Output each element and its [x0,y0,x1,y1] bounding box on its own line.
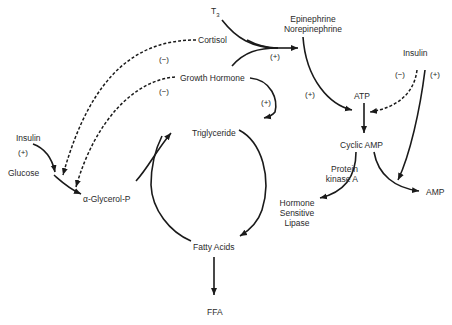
diagram-canvas [0,0,452,325]
epinephrine-text: Epinephrine [281,14,345,24]
epi-plus-sign: (+) [305,90,315,100]
insulin-minus-sign: (−) [395,70,405,80]
glucose-label: Glucose [8,168,39,178]
cortisol-inhibit-arrow [63,40,196,175]
insulin-left-plus-sign: (+) [18,148,28,158]
glycerol-to-tg-arrow [136,133,171,181]
camp-to-amp-arrow [374,152,419,191]
glycerol-p-label: α-Glycerol-P [83,194,130,204]
protein-kinase-label: Protein kinase A [314,164,358,184]
cortisol-label: Cortisol [198,35,227,45]
gh-inhibit-sign: (−) [159,87,169,97]
insulin-left-label: Insulin [16,133,41,143]
hormone-sensitive-lipase-label: Hormone Sensitive Lipase [272,198,322,228]
gh-plus-sign: (+) [261,98,271,108]
converge-plus-sign: (+) [270,52,280,62]
protein-kinase-text-2: kinase A [314,174,358,184]
triglyceride-label: Triglyceride [192,128,236,138]
cycle-right-arrow [239,130,266,236]
cortisol-inhibit-sign: (−) [159,55,169,65]
glucose-to-glycerol-arrow [54,175,81,194]
insulin-plus-sign: (+) [430,70,440,80]
hsl-text-1: Hormone [272,198,322,208]
insulin-right-label: Insulin [403,48,428,58]
ffa-label: FFA [207,307,223,317]
cyclic-amp-label: Cyclic AMP [340,140,383,150]
hsl-text-2: Sensitive [272,208,322,218]
t3-arrow [222,20,278,48]
insulin-inhibit-arrow [370,70,417,112]
norepinephrine-text: Norepinephrine [281,24,345,34]
epinephrine-label: Epinephrine Norepinephrine [281,14,345,34]
amp-label: AMP [426,187,444,197]
hsl-text-3: Lipase [272,218,322,228]
protein-kinase-text-1: Protein [314,164,358,174]
growth-hormone-label: Growth Hormone [180,73,245,83]
t3-label: T3 [211,6,220,20]
atp-label: ATP [354,91,370,101]
fatty-acids-label: Fatty Acids [193,242,235,252]
